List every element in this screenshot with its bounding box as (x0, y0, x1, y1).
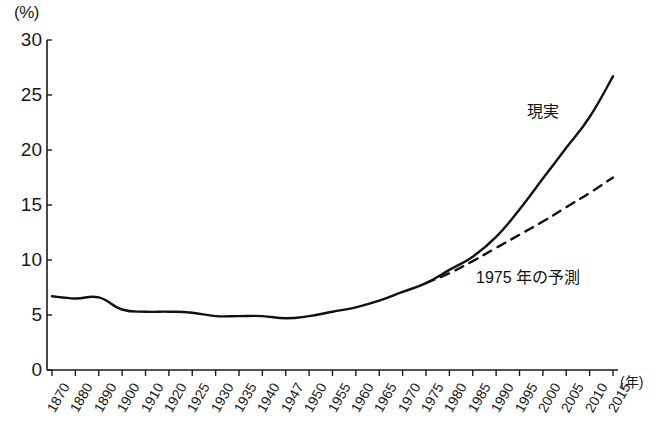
plot-area (0, 0, 656, 431)
x-axis-ticks (52, 370, 613, 376)
annotation-forecast: 1975 年の予測 (476, 264, 580, 288)
axis-lines (47, 40, 618, 370)
annotation-real: 現実 (527, 98, 559, 122)
chart-container: (%) (年) 051015202530 1870188018901900191… (0, 0, 656, 431)
